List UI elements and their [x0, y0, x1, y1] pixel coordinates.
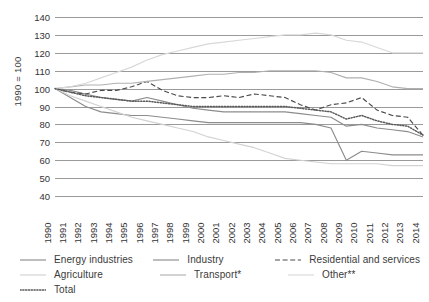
x-axis-tick-label: 2014 — [410, 222, 420, 243]
legend-label: Other** — [322, 269, 356, 280]
x-axis-tick-label: 2001 — [211, 222, 221, 243]
chart-legend: Energy industriesIndustryResidential and… — [20, 252, 420, 297]
legend-line-sample — [153, 255, 179, 265]
x-axis-tick-label: 2009 — [333, 222, 343, 243]
legend-item[interactable]: Industry — [153, 254, 275, 265]
x-axis-tick-label: 1994 — [103, 222, 113, 243]
legend-item[interactable]: Residential and services — [275, 254, 420, 265]
y-axis-tick-label: 60 — [39, 155, 50, 166]
legend-item[interactable]: Total — [20, 284, 160, 295]
series-line — [55, 33, 423, 88]
legend-row: AgricultureTransport*Other** — [20, 267, 420, 282]
legend-label: Agriculture — [54, 269, 103, 280]
x-axis-tick-label: 2006 — [287, 222, 297, 243]
line-chart: 1990 = 100 140130120110100908070605040 1… — [0, 0, 429, 302]
legend-line-sample — [288, 270, 314, 280]
x-axis-tick-label: 2011 — [364, 223, 374, 243]
series-layer — [55, 17, 423, 196]
legend-row: Total — [20, 282, 420, 297]
x-axis-tick-label: 2007 — [303, 222, 313, 243]
legend-item[interactable]: Transport* — [160, 269, 288, 280]
legend-row: Energy industriesIndustryResidential and… — [20, 252, 420, 267]
y-axis-tick-label: 140 — [34, 12, 50, 23]
x-axis-tick-label: 2013 — [395, 222, 405, 243]
plot-area: 140130120110100908070605040 — [55, 17, 423, 196]
x-axis-tick-label: 1996 — [134, 222, 144, 243]
y-axis-tick-label: 90 — [39, 101, 50, 112]
legend-item[interactable]: Energy industries — [20, 254, 153, 265]
y-axis-tick-label: 110 — [35, 65, 50, 76]
series-line — [55, 71, 423, 89]
y-axis-tick-label: 80 — [39, 119, 50, 130]
x-axis-tick-label: 1995 — [119, 222, 129, 243]
legend-line-sample — [20, 270, 46, 280]
x-axis-tick-label: 2002 — [226, 222, 236, 243]
y-axis-tick-label: 120 — [34, 47, 50, 58]
legend-line-sample — [20, 285, 46, 295]
x-axis-tick-label: 1992 — [73, 222, 83, 243]
x-axis-tick-label: 1998 — [165, 222, 175, 243]
x-axis-tick-label: 2008 — [318, 222, 328, 243]
x-axis-tick-label: 2012 — [379, 222, 389, 243]
x-axis-tick-label: 1991 — [57, 222, 67, 243]
y-axis-tick-label: 70 — [39, 137, 50, 148]
series-line — [55, 89, 423, 166]
legend-line-sample — [275, 255, 301, 265]
x-axis-tick-label: 1993 — [88, 222, 98, 243]
gridline — [55, 196, 423, 197]
x-axis-tick-label: 2004 — [257, 222, 267, 243]
legend-label: Industry — [187, 254, 223, 265]
legend-item[interactable]: Agriculture — [20, 269, 160, 280]
x-axis-tick-label: 1997 — [149, 222, 159, 243]
legend-line-sample — [160, 270, 186, 280]
legend-label: Energy industries — [54, 254, 133, 265]
x-axis-tick-label: 2005 — [272, 222, 282, 243]
y-axis-tick-label: 50 — [39, 173, 50, 184]
series-line — [55, 81, 423, 135]
legend-line-sample — [20, 255, 46, 265]
y-axis-tick-label: 130 — [34, 29, 50, 40]
legend-item[interactable]: Other** — [288, 269, 356, 280]
legend-label: Transport* — [194, 269, 241, 280]
x-axis-tick-label: 2003 — [241, 222, 251, 243]
y-axis-tick-label: 40 — [39, 191, 50, 202]
legend-label: Total — [54, 284, 76, 295]
y-axis-title: 1990 = 100 — [12, 27, 23, 137]
y-axis-tick-label: 100 — [34, 83, 50, 94]
x-axis-ticks: 1990199119921993199419951996199719981999… — [55, 199, 423, 243]
x-axis-tick-label: 1990 — [42, 222, 52, 243]
x-axis-tick-label: 2000 — [195, 222, 205, 243]
x-axis-tick-label: 2010 — [349, 222, 359, 243]
x-axis-tick-label: 1999 — [180, 222, 190, 243]
legend-label: Residential and services — [309, 254, 420, 265]
